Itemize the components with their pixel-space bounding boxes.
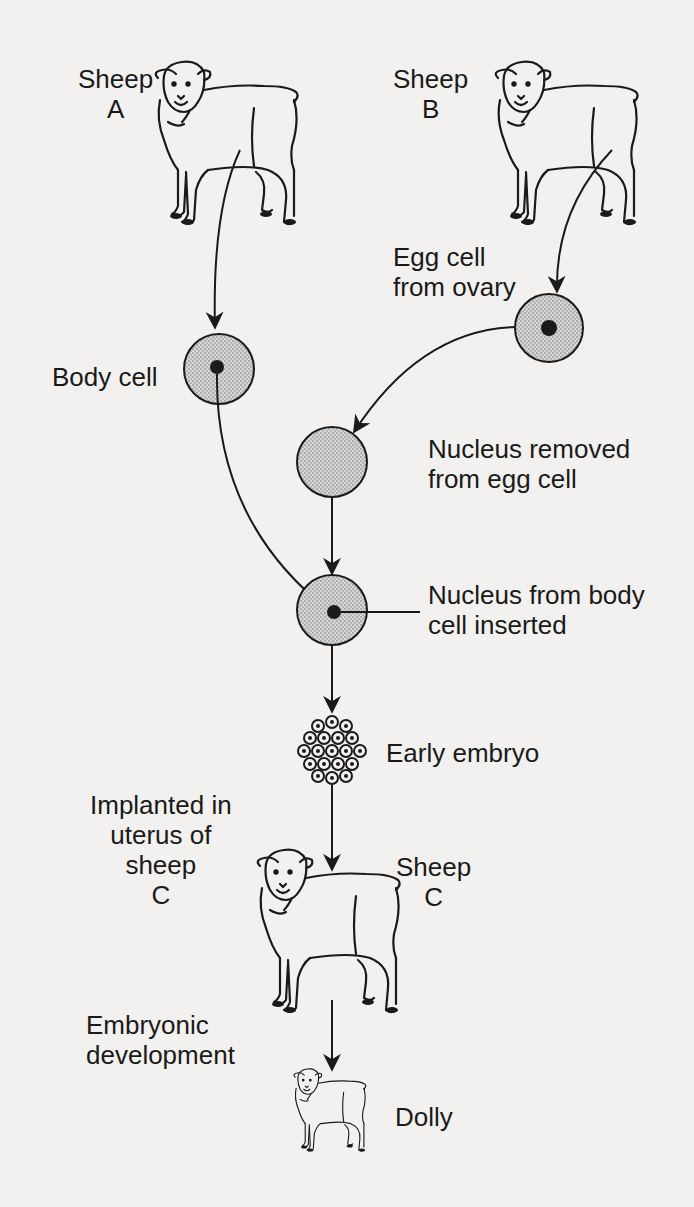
label-sheep-c: Sheep C <box>396 852 471 912</box>
label-body-cell: Body cell <box>52 362 158 392</box>
label-implanted: Implanted in uterus of sheep C <box>90 790 232 910</box>
label-dolly: Dolly <box>395 1102 453 1132</box>
body-cell-icon <box>184 334 254 404</box>
label-nucleus-removed: Nucleus removed from egg cell <box>428 434 630 494</box>
enucleated-egg-icon <box>297 427 367 497</box>
label-sheep-a: Sheep A <box>78 64 153 124</box>
egg-cell-icon <box>515 294 583 362</box>
label-embryonic-development: Embryonic development <box>86 1010 235 1070</box>
label-sheep-b: Sheep B <box>393 64 468 124</box>
label-early-embryo: Early embryo <box>386 738 539 768</box>
label-nucleus-inserted: Nucleus from body cell inserted <box>428 580 645 640</box>
fused-cell-icon <box>297 575 367 645</box>
label-egg-cell: Egg cell from ovary <box>393 242 516 302</box>
